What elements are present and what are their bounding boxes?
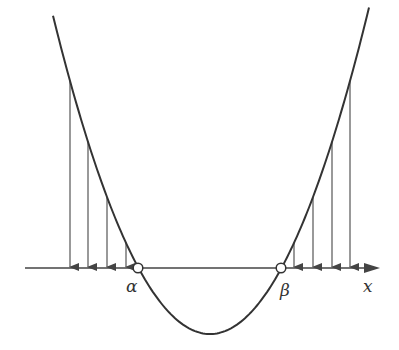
root-alpha-marker bbox=[133, 263, 143, 273]
x-axis-label: x bbox=[363, 276, 373, 296]
alpha-label: α bbox=[126, 276, 138, 296]
beta-label: β bbox=[279, 280, 290, 300]
projection-arrows bbox=[70, 81, 350, 267]
parabola-curve bbox=[53, 8, 369, 334]
root-beta-marker bbox=[276, 263, 286, 273]
x-axis-arrowhead bbox=[364, 263, 380, 273]
parabola-diagram: α β x bbox=[0, 0, 399, 350]
